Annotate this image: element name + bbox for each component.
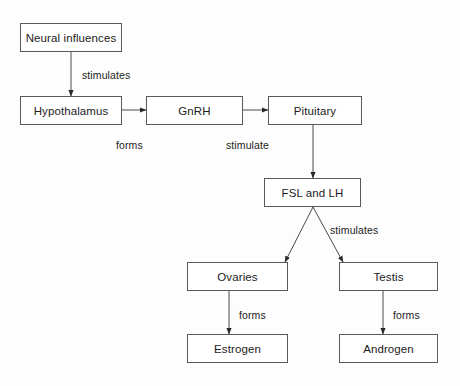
edge-label-label-stimulates-neural: stimulates [82, 69, 130, 81]
edge-label-label-stimulates-gonads: stimulates [330, 224, 378, 236]
node-estrogen: Estrogen [187, 334, 288, 363]
node-label: Androgen [363, 343, 414, 355]
node-label: Hypothalamus [34, 105, 109, 117]
edge-label-label-forms-gnrh: forms [116, 139, 143, 151]
node-testis: Testis [339, 262, 438, 291]
flowchart-diagram: Neural influencesHypothalamusGnRHPituita… [0, 0, 460, 386]
node-hypothalamus: Hypothalamus [20, 96, 122, 125]
node-label: Neural influences [26, 32, 117, 44]
edge-label-label-stimulate-pituitary: stimulate [226, 139, 269, 151]
node-label: Pituitary [294, 105, 336, 117]
edge-layer [0, 0, 460, 386]
node-label: FSL and LH [282, 187, 344, 199]
node-gnrh: GnRH [146, 96, 243, 125]
node-label: Testis [374, 271, 404, 283]
node-label: GnRH [178, 105, 210, 117]
node-ovaries: Ovaries [187, 262, 288, 291]
node-fsl-and-lh: FSL and LH [264, 178, 361, 207]
node-label: Estrogen [214, 343, 261, 355]
node-pituitary: Pituitary [268, 96, 362, 125]
edge-label-label-forms-estrogen: forms [239, 309, 266, 321]
node-label: Ovaries [217, 271, 257, 283]
node-neural-influences: Neural influences [20, 23, 122, 52]
edge-fsl-lh-to-ovaries [285, 207, 313, 262]
node-androgen: Androgen [339, 334, 438, 363]
edge-label-label-forms-androgen: forms [393, 309, 420, 321]
